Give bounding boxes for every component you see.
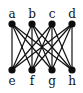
node-g — [48, 66, 55, 73]
node-label-b: b — [28, 7, 36, 21]
node-h — [68, 66, 75, 73]
node-d — [68, 20, 75, 27]
node-label-a: a — [8, 7, 15, 21]
node-a — [8, 20, 15, 27]
node-label-d: d — [68, 7, 76, 21]
node-label-e: e — [8, 74, 15, 88]
bipartite-graph: abcdefgh — [0, 0, 83, 93]
node-f — [28, 66, 35, 73]
node-label-c: c — [49, 7, 56, 21]
node-b — [28, 20, 35, 27]
node-e — [8, 66, 15, 73]
node-label-f: f — [30, 74, 36, 88]
node-c — [48, 20, 55, 27]
node-label-g: g — [48, 74, 56, 88]
node-label-h: h — [68, 74, 76, 88]
edges-group — [12, 24, 72, 70]
